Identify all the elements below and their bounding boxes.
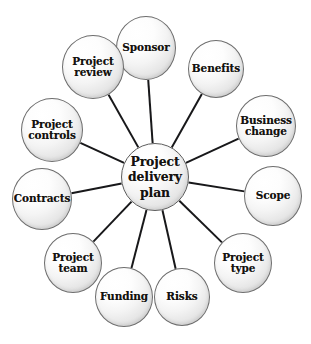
node-business-change[interactable]: Business change (236, 95, 296, 157)
edge-hub-to-funding (131, 210, 146, 268)
node-benefits[interactable]: Benefits (188, 40, 244, 98)
node-project-team-label: Project team (45, 252, 101, 274)
edge-hub-to-project-controls (80, 143, 124, 163)
node-funding[interactable]: Funding (95, 267, 153, 327)
edge-hub-to-scope (189, 182, 245, 191)
node-contracts-label: Contracts (13, 193, 71, 204)
edge-hub-to-project-type (179, 201, 222, 243)
hub-node-project-delivery-plan-label: Project delivery plan (122, 154, 188, 199)
node-project-review[interactable]: Project review (62, 35, 124, 99)
edge-hub-to-project-team (93, 202, 131, 242)
edge-hub-to-risks (162, 210, 175, 269)
hub-node-project-delivery-plan[interactable]: Project delivery plan (121, 143, 189, 211)
node-project-review-label: Project review (63, 56, 123, 78)
node-sponsor[interactable]: Sponsor (116, 16, 176, 80)
node-project-team[interactable]: Project team (44, 233, 102, 293)
node-scope-label: Scope (245, 190, 301, 201)
node-scope[interactable]: Scope (244, 166, 302, 226)
edge-hub-to-project-review (109, 95, 139, 148)
edge-hub-to-contracts (71, 183, 121, 193)
edge-hub-to-benefits (172, 94, 202, 147)
radial-diagram: Project delivery planSponsorBenefitsBusi… (0, 0, 311, 344)
node-business-change-label: Business change (237, 115, 295, 137)
node-project-type-label: Project type (215, 252, 271, 274)
figure-caption (0, 331, 311, 344)
node-sponsor-label: Sponsor (117, 42, 175, 53)
node-contracts[interactable]: Contracts (12, 168, 72, 230)
edge-hub-to-sponsor (148, 80, 152, 143)
node-risks[interactable]: Risks (154, 268, 210, 326)
node-benefits-label: Benefits (189, 63, 243, 74)
node-project-controls-label: Project controls (22, 119, 82, 141)
node-funding-label: Funding (96, 291, 152, 302)
node-risks-label: Risks (155, 291, 209, 302)
edge-hub-to-business-change (186, 139, 239, 163)
node-project-type[interactable]: Project type (214, 233, 272, 293)
node-project-controls[interactable]: Project controls (21, 98, 83, 162)
